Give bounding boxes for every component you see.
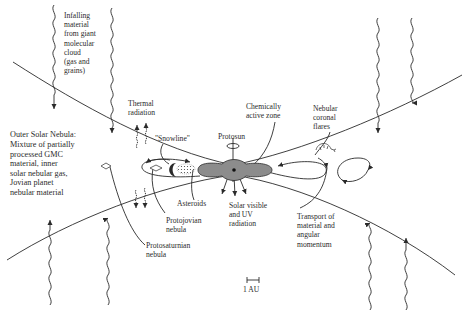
protosaturnian-nebula-icon — [101, 163, 111, 169]
label-protojovian-nebula: Protojovian nebula — [166, 216, 201, 234]
thermal-arrow-down-2 — [144, 188, 145, 208]
label-outer-solar-nebula-title: Outer Solar Nebula: — [10, 130, 76, 140]
label-protosaturnian-nebula: Protosaturnian nebula — [146, 241, 190, 259]
infall-wave-1 — [53, 5, 55, 109]
thermal-arrow-up-1 — [136, 125, 137, 148]
leader-chemically-active — [252, 122, 275, 166]
leader-snowline — [161, 144, 169, 164]
leader-asteroids — [192, 170, 194, 200]
label-infalling-material: Infalling material from giant molecular … — [64, 11, 96, 75]
label-nebular-coronal-flares: Nebular coronal flares — [313, 104, 337, 132]
protosun-core — [232, 168, 236, 172]
label-scale-1-au: 1 AU — [243, 285, 259, 294]
infall-wave-7 — [369, 223, 371, 310]
label-asteroids: Asteroids — [177, 199, 206, 208]
leader-transport — [300, 168, 327, 208]
infall-wave-5 — [49, 220, 51, 305]
label-outer-solar-nebula-desc: Mixture of partially processed GMC mater… — [10, 140, 75, 198]
nebula-upper-boundary — [13, 62, 462, 165]
infall-wave-6 — [107, 218, 109, 305]
label-solar-visible-uv-radiation: Solar visible and UV radiation — [229, 201, 267, 229]
label-protosun: Protosun — [218, 132, 245, 141]
label-chemically-active-zone: Chemically active zone — [246, 102, 281, 120]
thermal-arrow-up-2 — [145, 123, 146, 144]
coronal-flare-icon — [316, 143, 336, 152]
label-thermal-radiation: Thermal radiation — [128, 99, 155, 117]
label-transport-angular-momentum: Transport of material and angular moment… — [297, 212, 335, 249]
infall-wave-2 — [111, 8, 113, 133]
right-circulation-loop — [268, 162, 326, 179]
outer-circulation-cell-b — [342, 170, 368, 182]
asteroid-cloud — [177, 164, 195, 174]
leader-protosaturnian — [110, 167, 145, 245]
infall-wave-4 — [411, 18, 413, 103]
label-snowline: "Snowline" — [155, 134, 190, 143]
scale-bar — [247, 277, 259, 283]
protojovian-nebula-icon — [150, 165, 162, 171]
outer-circulation-cell — [338, 158, 370, 180]
snowline-crescent-icon — [169, 163, 176, 177]
infall-wave-8 — [405, 238, 407, 310]
